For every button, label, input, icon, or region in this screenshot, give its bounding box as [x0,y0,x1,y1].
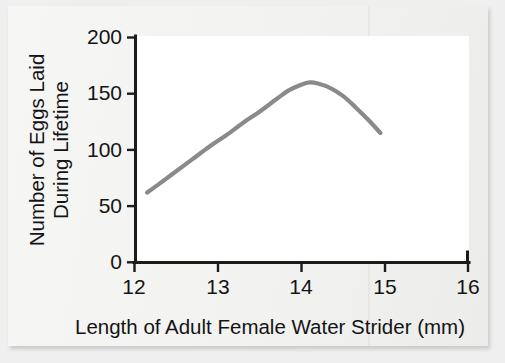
y-axis-title: Number of Eggs Laid During Lifetime [25,54,72,247]
y-axis-ticks [127,38,135,263]
x-axis-tick-labels: 12 13 14 15 16 [122,275,479,298]
y-axis-tick-labels: 200 150 100 50 0 [87,25,122,273]
y-tick-label-200: 200 [87,25,122,48]
line-chart-svg: 200 150 100 50 0 12 [0,0,505,363]
y-tick-label-50: 50 [99,194,122,217]
x-tick-label-16: 16 [456,275,479,298]
y-tick-label-0: 0 [110,250,122,273]
y-axis-title-line-1: Number of Eggs Laid [25,54,48,247]
y-tick-label-100: 100 [87,138,122,161]
x-tick-label-15: 15 [373,275,396,298]
y-axis-title-line-2: During Lifetime [49,81,72,219]
x-axis-title: Length of Adult Female Water Strider (mm… [75,315,465,338]
plot-area-background [135,36,469,262]
x-tick-label-14: 14 [289,275,313,298]
x-tick-label-12: 12 [122,275,145,298]
y-tick-label-150: 150 [87,81,122,104]
chart-figure: 200 150 100 50 0 12 [0,0,505,363]
x-tick-label-13: 13 [206,275,229,298]
